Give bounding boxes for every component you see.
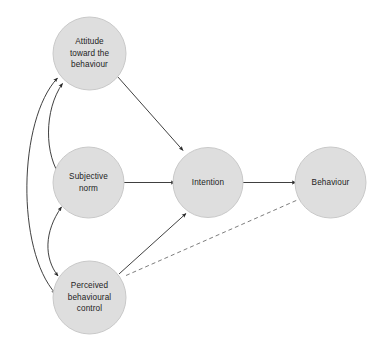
theory-of-planned-behaviour-diagram: Behaviour (dashed) --> Attitude toward t… <box>0 0 381 345</box>
node-intention-label: Intention <box>192 178 225 187</box>
node-intention[interactable]: Intention <box>173 148 243 218</box>
node-attitude-label-line1: Attitude <box>75 37 104 46</box>
diagram-canvas: Behaviour (dashed) --> Attitude toward t… <box>0 0 381 345</box>
node-pbc-label-line2: behavioural <box>68 293 112 302</box>
node-subjective-norm-label-line1: Subjective <box>69 172 108 181</box>
edge-subjective-norm-pbc <box>48 207 62 276</box>
node-behaviour-label: Behaviour <box>312 178 350 187</box>
node-subjective-norm-circle[interactable] <box>53 147 124 218</box>
node-attitude-toward-the-behaviour[interactable]: Attitude toward the behaviour <box>53 17 126 90</box>
node-subjective-norm-label-line2: norm <box>79 184 98 193</box>
node-attitude-label-line3: behaviour <box>71 60 108 69</box>
node-subjective-norm[interactable]: Subjective norm <box>53 147 124 218</box>
node-perceived-behavioural-control[interactable]: Perceived behavioural control <box>53 261 126 334</box>
edge-pbc-to-intention <box>119 214 186 275</box>
node-pbc-label-line1: Perceived <box>71 281 109 290</box>
node-attitude-label-line2: toward the <box>70 49 110 58</box>
node-pbc-label-line3: control <box>77 304 102 313</box>
node-behaviour[interactable]: Behaviour <box>295 147 366 218</box>
edge-attitude-to-intention <box>118 77 184 151</box>
